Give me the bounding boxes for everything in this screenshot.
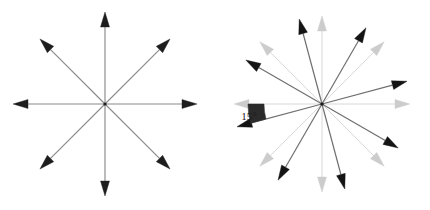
rotated-arrow-315-head (383, 137, 398, 148)
rotated-arrow-0-head (391, 81, 407, 90)
original-arrow-225-shaft (51, 104, 105, 158)
rotated-arrow-225-head (278, 165, 289, 180)
original-arrow-135 (40, 39, 105, 104)
rotated-arrow-0 (322, 81, 407, 104)
rotated-arrow-0-shaft (322, 85, 393, 104)
original-arrow-315 (105, 104, 170, 169)
star-rotation-figure: 15° (0, 0, 430, 210)
original-arrow-225 (40, 104, 105, 169)
ghost-arrow-270-head (318, 177, 327, 192)
rotated-arrow-270-shaft (322, 104, 341, 175)
right-panel: 15° (234, 16, 410, 192)
rotated-star-center-point (320, 102, 323, 105)
angle-label: 15° (241, 110, 256, 122)
figure-root: 15° (0, 0, 430, 210)
original-arrow-45-shaft (105, 50, 159, 104)
original-arrow-315-shaft (105, 104, 159, 158)
rotated-arrow-270-head (337, 173, 346, 189)
original-arrow-90-head (101, 12, 110, 27)
original-arrow-180-head (13, 100, 28, 109)
ghost-arrow-90-head (318, 16, 327, 31)
original-arrow-90 (101, 12, 110, 104)
ghost-arrow-0-head (395, 100, 410, 109)
original-arrow-135-shaft (51, 50, 105, 104)
original-star-center-point (103, 102, 106, 105)
original-arrow-270-head (101, 181, 110, 196)
original-arrow-180 (13, 100, 105, 109)
original-arrow-270 (101, 104, 110, 196)
original-star (13, 12, 197, 196)
rotated-arrow-90 (299, 19, 322, 104)
rotated-arrow-90-shaft (303, 33, 322, 104)
rotated-arrow-45-head (355, 28, 366, 43)
original-arrow-0 (105, 100, 197, 109)
rotated-arrow-90-head (299, 19, 308, 35)
left-panel (13, 12, 197, 196)
original-arrow-0-head (182, 100, 197, 109)
ghost-arrow-180-head (234, 100, 249, 109)
original-arrow-45 (105, 39, 170, 104)
rotated-arrow-135-head (246, 60, 261, 71)
rotated-arrow-270 (322, 104, 345, 189)
